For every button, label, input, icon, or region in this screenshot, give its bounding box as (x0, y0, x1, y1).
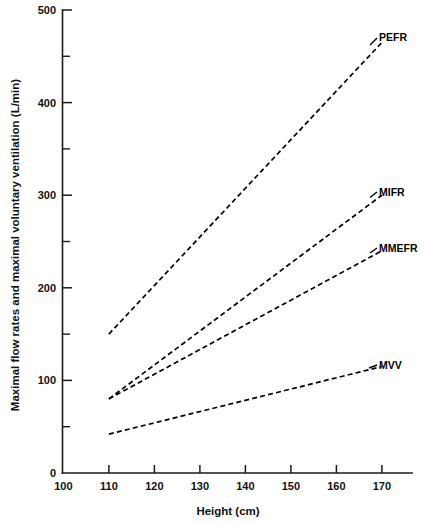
y-axis-minor-ticks (63, 56, 71, 426)
line-chart: Maximal flow rates and maximal voluntary… (0, 0, 427, 524)
x-tick-label-150: 150 (282, 480, 300, 492)
x-axis-tick-labels: 100 110 120 130 140 150 160 170 (54, 480, 391, 492)
y-tick-label-200: 200 (38, 282, 56, 294)
series-line-pefr (109, 42, 382, 334)
series-label-mmefr: MMEFR (379, 242, 418, 254)
leader-mmefr (370, 248, 377, 253)
x-tick-label-160: 160 (327, 480, 345, 492)
y-tick-label-400: 400 (38, 97, 56, 109)
y-axis-major-ticks (63, 10, 73, 380)
y-axis-title: Maximal flow rates and maximal voluntary… (9, 79, 21, 411)
series-line-mifr (109, 195, 382, 399)
y-tick-label-0: 0 (50, 467, 56, 479)
x-axis-title: Height (cm) (196, 505, 259, 517)
x-tick-label-120: 120 (145, 480, 163, 492)
x-tick-label-110: 110 (100, 480, 118, 492)
series-label-pefr: PEFR (379, 31, 407, 43)
data-series-group (109, 42, 382, 434)
y-axis-tick-labels: 500 400 300 200 100 0 (38, 4, 56, 479)
series-line-mvv (109, 367, 382, 435)
y-tick-label-500: 500 (38, 4, 56, 16)
y-tick-label-300: 300 (38, 189, 56, 201)
x-tick-label-170: 170 (373, 480, 391, 492)
series-label-leaders (369, 38, 377, 368)
leader-pefr (370, 38, 377, 45)
series-label-mifr: MIFR (379, 186, 405, 198)
x-tick-label-140: 140 (236, 480, 254, 492)
series-label-mvv: MVV (379, 359, 402, 371)
chart-figure: Maximal flow rates and maximal voluntary… (0, 0, 427, 524)
series-labels: PEFR MIFR MMEFR MVV (379, 31, 418, 371)
x-tick-label-100: 100 (54, 480, 72, 492)
x-axis-ticks (109, 465, 382, 473)
x-tick-label-130: 130 (191, 480, 209, 492)
y-tick-label-100: 100 (38, 374, 56, 386)
leader-mifr (370, 192, 377, 198)
